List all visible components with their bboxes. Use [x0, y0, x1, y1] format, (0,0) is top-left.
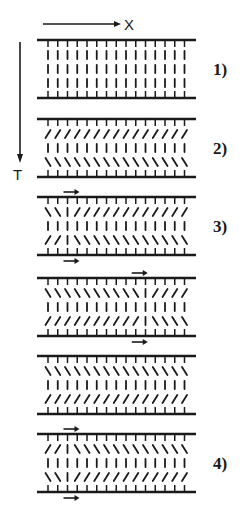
director-molecule	[182, 445, 187, 453]
director-molecule	[94, 130, 99, 138]
panel-label: 4)	[213, 454, 227, 473]
director-molecule	[153, 445, 158, 453]
director-molecule	[143, 445, 148, 453]
director-molecule	[153, 289, 158, 297]
director-molecule	[143, 158, 148, 166]
director-molecule	[94, 473, 99, 481]
x-axis-arrow	[43, 21, 121, 27]
director-molecule	[46, 367, 51, 375]
director-molecule	[182, 158, 187, 166]
director-molecule	[65, 289, 70, 297]
panels: 1)2)3)4)	[37, 40, 227, 501]
director-molecule	[75, 445, 80, 453]
director-molecule	[55, 317, 60, 325]
director-molecule	[46, 130, 51, 138]
director-molecule	[182, 367, 187, 375]
director-molecule	[153, 158, 158, 166]
director-molecule	[124, 445, 129, 453]
panel-5	[37, 356, 196, 414]
director-molecule	[75, 236, 80, 244]
panel-label: 1)	[213, 60, 227, 79]
director-molecule	[65, 317, 70, 325]
director-molecule	[153, 473, 158, 481]
director-molecule	[75, 317, 80, 325]
director-molecule	[172, 317, 177, 325]
director-molecule	[163, 367, 168, 375]
director-molecule	[85, 395, 90, 403]
x-axis-label: X	[124, 16, 134, 33]
director-molecule	[153, 317, 158, 325]
panel-6: 4)	[37, 426, 227, 501]
director-molecule	[104, 130, 109, 138]
director-molecule	[182, 289, 187, 297]
director-molecule	[172, 236, 177, 244]
director-molecule	[114, 317, 119, 325]
director-molecule	[133, 208, 138, 216]
director-molecule	[94, 367, 99, 375]
director-molecule	[104, 158, 109, 166]
director-molecule	[55, 367, 60, 375]
director-molecule	[143, 236, 148, 244]
director-molecule	[124, 289, 129, 297]
director-molecule	[94, 445, 99, 453]
director-molecule	[75, 473, 80, 481]
director-molecule	[55, 395, 60, 403]
director-molecule	[104, 289, 109, 297]
director-molecule	[75, 367, 80, 375]
flow-arrow-icon	[64, 426, 80, 432]
director-molecule	[65, 158, 70, 166]
director-molecule	[55, 445, 60, 453]
director-molecule	[114, 130, 119, 138]
director-molecule	[124, 473, 129, 481]
director-molecule	[143, 130, 148, 138]
director-molecule	[133, 395, 138, 403]
director-molecule	[182, 317, 187, 325]
director-molecule	[85, 445, 90, 453]
director-molecule	[153, 367, 158, 375]
director-molecule	[182, 473, 187, 481]
director-molecule	[163, 130, 168, 138]
director-molecule	[46, 236, 51, 244]
director-molecule	[133, 158, 138, 166]
director-molecule	[114, 367, 119, 375]
director-molecule	[124, 208, 129, 216]
director-molecule	[133, 289, 138, 297]
director-molecule	[94, 158, 99, 166]
director-molecule	[172, 367, 177, 375]
director-molecule	[124, 130, 129, 138]
director-molecule	[143, 367, 148, 375]
director-molecule	[85, 317, 90, 325]
director-molecule	[163, 317, 168, 325]
director-molecule	[133, 367, 138, 375]
director-molecule	[143, 208, 148, 216]
director-molecule	[46, 473, 51, 481]
director-molecule	[85, 236, 90, 244]
director-molecule	[104, 473, 109, 481]
director-molecule	[75, 395, 80, 403]
director-molecule	[55, 130, 60, 138]
director-molecule	[182, 236, 187, 244]
director-molecule	[133, 317, 138, 325]
director-molecule	[172, 208, 177, 216]
director-molecule	[153, 236, 158, 244]
flow-arrow-icon	[132, 270, 148, 276]
director-molecule	[114, 208, 119, 216]
director-molecule	[94, 236, 99, 244]
flow-arrow-icon	[64, 495, 80, 501]
director-molecule	[163, 208, 168, 216]
director-molecule	[114, 289, 119, 297]
director-molecule	[133, 130, 138, 138]
flow-arrow-icon	[132, 339, 148, 345]
director-molecule	[163, 395, 168, 403]
director-molecule	[114, 395, 119, 403]
director-molecule	[104, 367, 109, 375]
director-molecule	[55, 236, 60, 244]
director-molecule	[163, 473, 168, 481]
director-molecule	[163, 445, 168, 453]
director-molecule	[75, 158, 80, 166]
director-molecule	[85, 289, 90, 297]
director-molecule	[124, 395, 129, 403]
director-molecule	[163, 289, 168, 297]
director-molecule	[94, 208, 99, 216]
director-molecule	[124, 236, 129, 244]
